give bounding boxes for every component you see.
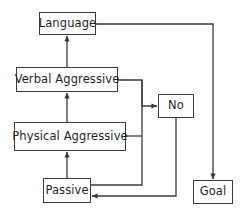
node-goal[interactable]: Goal bbox=[193, 180, 233, 204]
node-goal-label: Goal bbox=[200, 186, 227, 198]
node-language-label: Language bbox=[39, 17, 97, 29]
node-passive[interactable]: Passive bbox=[43, 178, 91, 203]
edge-verbal-to-no bbox=[118, 80, 157, 106]
node-verbal-aggressive-label: Verbal Aggressive bbox=[15, 73, 120, 85]
flowchart-diagram: Language Verbal Aggressive Physical Aggr… bbox=[0, 0, 247, 216]
node-no[interactable]: No bbox=[158, 94, 194, 118]
node-physical-aggressive[interactable]: Physical Aggressive bbox=[14, 122, 126, 151]
node-language[interactable]: Language bbox=[39, 12, 96, 35]
edge-language-to-goal bbox=[96, 24, 213, 179]
node-passive-label: Passive bbox=[45, 184, 88, 196]
node-verbal-aggressive[interactable]: Verbal Aggressive bbox=[16, 67, 118, 92]
node-no-label: No bbox=[168, 100, 184, 112]
node-physical-aggressive-label: Physical Aggressive bbox=[12, 130, 127, 142]
